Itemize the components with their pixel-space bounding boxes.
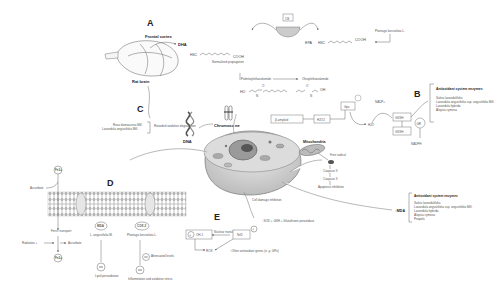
epa-formula: H3C COOH <box>318 38 366 45</box>
panel-e: E + OH-1 Nuclear translocation Nrf2 + RO… <box>186 212 315 253</box>
mitochondria-title: Mitochondria <box>303 140 327 144</box>
chromosome-icon <box>224 106 233 120</box>
sod-label: ↑SOD + GSH + Glutathione peroxidase <box>262 219 315 223</box>
epa-label: EPA <box>305 41 313 45</box>
svg-text:H2O2: H2O2 <box>317 118 325 122</box>
svg-text:GSSH: GSSH <box>395 116 404 120</box>
svg-text:N: N <box>310 94 312 98</box>
enzymes-b-list: Salvia lavandulifolia Lavandula angustif… <box>436 96 495 112</box>
panel-b: B β-amyloid H2O2 Gpx H2O GSSH GSSH GR NA… <box>271 84 495 146</box>
svg-text:H3C: H3C <box>318 41 326 45</box>
ascorbate-label: Ascorbate <box>30 186 44 190</box>
svg-text:+: + <box>252 227 254 231</box>
selenium-icon <box>355 95 361 101</box>
svg-text:OH: OH <box>320 88 326 92</box>
svg-text:Nrf2: Nrf2 <box>237 233 243 237</box>
enzymes-b-title: Antioxidant system enzymes <box>436 87 483 91</box>
lipid-peroxidation: Lipid peroxidation <box>95 274 119 278</box>
panel-a: A Frontal cortex DHA Rat brain H3C COOH … <box>105 14 405 118</box>
normalized-propagation: Normalized propagation <box>212 60 244 64</box>
svg-text:N: N <box>256 94 258 98</box>
apoptosis-label: Apoptosis inhibition <box>318 185 344 189</box>
chromosome-label: Chromosome <box>214 123 241 128</box>
attenuated-levels: Attenuated levels <box>151 254 175 258</box>
nadp-label: NADP+ <box>375 100 385 104</box>
svg-text:MDA: MDA <box>97 224 105 228</box>
other-genes-label: ↑Other antioxidant genes (e. g. GPx) <box>230 249 279 253</box>
ferric-transport-label: Ferric transport <box>51 229 72 233</box>
cell-damage-label: Cell damage inhibition <box>252 198 282 202</box>
mda-up-label: ↑MDA <box>395 209 405 213</box>
rat-brain-icon <box>105 41 178 76</box>
inflammation-label: Inflammation and oxidative stress <box>128 277 173 281</box>
ros-label: ROS <box>206 249 213 253</box>
panel-b-label: B <box>414 89 421 99</box>
cell-illustration <box>204 131 301 195</box>
h2o-label: H2O <box>368 123 375 127</box>
panel-a-label: A <box>147 18 154 28</box>
lipid-bilayer <box>48 192 186 216</box>
svg-text:O: O <box>306 84 309 88</box>
svg-text:GSSH: GSSH <box>395 130 404 134</box>
panel-d-label: D <box>107 178 114 188</box>
svg-text:CB: CB <box>285 17 289 21</box>
source-lavandula: Lavandula angustifolia Mill. <box>102 127 138 131</box>
svg-text:COOH: COOH <box>233 55 244 59</box>
svg-text:+: + <box>189 233 191 237</box>
panel-e-label: E <box>214 212 220 222</box>
cb-receptor-icon: CB <box>252 14 318 37</box>
svg-text:Aloysia cymosa: Aloysia cymosa <box>436 108 457 112</box>
channel-protein-2 <box>145 193 155 215</box>
free-radical-icon <box>328 160 334 164</box>
nadph-label: NADPH <box>411 142 422 146</box>
svg-text:HO: HO <box>240 90 246 94</box>
caspase9-label: Caspase 9 <box>323 169 338 173</box>
svg-text:OH-1: OH-1 <box>196 233 203 237</box>
svg-text:Fe3+: Fe3+ <box>55 168 62 172</box>
svg-text:Fe2+: Fe2+ <box>55 256 62 260</box>
frontal-cortex-label: Frontal cortex <box>145 34 172 39</box>
svg-text:Gpx: Gpx <box>344 105 350 109</box>
dha-label: DHA <box>178 42 187 47</box>
svg-text:Propolis: Propolis <box>414 217 425 221</box>
panel-d: D Fe3+ Ascorbate Ferric transport Radiat… <box>22 166 186 281</box>
radiation-label: Radiation + <box>22 241 38 245</box>
pea-structure: HO N O <box>240 84 287 98</box>
svg-text:β-amyloid: β-amyloid <box>275 118 288 122</box>
oleoylethanolamide-label: Oleoylethanolamide <box>302 77 329 81</box>
palmitoylethanolamide-label: Palmitoylethanolamide <box>241 77 272 81</box>
caspase3-label: Caspase 3 <box>323 177 338 181</box>
rat-brain-label: Rat brain <box>132 79 150 84</box>
ascorbate2-label: Ascorbate <box>68 241 82 245</box>
cox2-source: Plantago lanceolata L. <box>127 233 157 237</box>
oea-structure: O N OH <box>296 84 326 98</box>
svg-text:H3C: H3C <box>190 53 198 57</box>
plantago-label: Plantago lanceolata L. <box>375 29 405 33</box>
right-enzymes-box: ↑MDA Antioxidant system enzymes Salvia l… <box>395 193 473 222</box>
svg-text:COOH: COOH <box>355 38 366 42</box>
mda-source: L. angustifolia M. <box>90 233 113 237</box>
enzymes-right-title: Antioxidant system enzymes <box>414 194 458 198</box>
dha-formula: H3C COOH Normalized propagation <box>190 53 244 64</box>
neuroprotection-diagram: A Frontal cortex DHA Rat brain H3C COOH … <box>0 0 499 304</box>
svg-text:COX-2: COX-2 <box>137 224 147 228</box>
svg-text:Free radical: Free radical <box>330 153 346 157</box>
dna-label: DNA <box>183 139 192 144</box>
panel-c-label: C <box>137 104 144 114</box>
svg-text:O: O <box>262 84 265 88</box>
channel-protein-1 <box>76 193 86 215</box>
